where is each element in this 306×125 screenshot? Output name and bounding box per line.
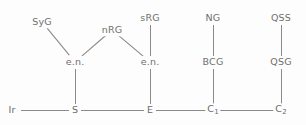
node-qsg[interactable]: QSG [268, 56, 293, 68]
node-e[interactable]: E [145, 104, 155, 116]
node-ir[interactable]: Ir [6, 104, 17, 116]
node-label: S [72, 104, 78, 115]
node-ng[interactable]: NG [204, 12, 223, 24]
edge-syg-en1 [47, 28, 69, 55]
node-en2[interactable]: e.n. [139, 56, 162, 68]
node-label: SyG [32, 16, 52, 27]
node-label: e.n. [141, 56, 160, 67]
node-label: e.n. [66, 56, 85, 67]
node-label: Ir [8, 104, 15, 115]
edge-nrg-en2 [118, 35, 143, 56]
node-qss[interactable]: QSS [269, 12, 293, 24]
node-label: sRG [140, 12, 160, 23]
node-s[interactable]: S [70, 104, 80, 116]
node-label: C [207, 103, 214, 114]
node-label: E [147, 104, 153, 115]
edge-nrg-en1 [82, 35, 106, 56]
node-nrg[interactable]: nRG [100, 24, 125, 36]
node-c1[interactable]: C1 [205, 103, 220, 116]
node-c2[interactable]: C2 [273, 103, 288, 116]
node-srg[interactable]: sRG [138, 12, 162, 24]
node-syg[interactable]: SyG [30, 16, 54, 28]
node-label: BCG [203, 56, 224, 67]
node-label-subscript: 1 [214, 108, 218, 116]
node-label: QSG [270, 56, 291, 67]
node-en1[interactable]: e.n. [64, 56, 87, 68]
node-bcg[interactable]: BCG [201, 56, 226, 68]
node-label: QSS [271, 12, 291, 23]
node-label: NG [206, 12, 221, 23]
node-label: nRG [102, 24, 123, 35]
diagram-canvas: SyGnRGsRGNGQSSe.n.e.n.BCGQSGIrSEC1C2 [0, 0, 306, 125]
node-label-subscript: 2 [282, 108, 286, 116]
node-label: C [275, 103, 282, 114]
